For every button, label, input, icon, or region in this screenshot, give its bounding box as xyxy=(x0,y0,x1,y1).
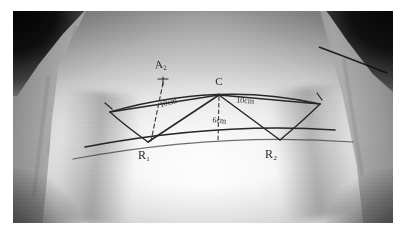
photo-frame: A₂C10cm10cm6cmR₁R₂ xyxy=(0,0,406,234)
tick-left-vertex xyxy=(105,103,112,109)
apex-point-c xyxy=(218,94,221,97)
label-a2: A₂ xyxy=(154,57,167,70)
label-mid-6cm: 6cm xyxy=(212,115,227,125)
clinical-photograph: A₂C10cm10cm6cmR₁R₂ xyxy=(13,11,393,223)
tube-line xyxy=(319,47,387,73)
label-c: C xyxy=(215,75,222,87)
label-right-10cm: 10cm xyxy=(236,95,255,105)
label-r1: R₁ xyxy=(138,148,150,162)
tick-a2 xyxy=(158,77,168,85)
marking-a2-dashed-line xyxy=(151,83,163,141)
surgical-marking-overlay: A₂C10cm10cm6cmR₁R₂ xyxy=(13,11,393,223)
marking-lower-arc xyxy=(85,128,335,147)
label-left-10cm: 10cm xyxy=(159,96,179,110)
marking-r2-to-right-vertex xyxy=(280,104,320,140)
tick-right-vertex xyxy=(317,93,322,100)
marking-r1-to-left-vertex xyxy=(110,112,148,142)
label-r2: R₂ xyxy=(265,147,277,161)
